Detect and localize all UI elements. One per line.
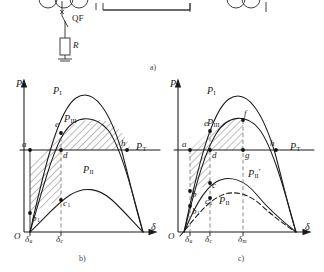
xtick-label-delta-c-c: δc	[205, 235, 212, 245]
delta-m-sym-c: δ	[238, 234, 242, 244]
pt-letter-c: P	[290, 141, 296, 152]
b1-letter-c: b	[192, 206, 197, 216]
point-label-g-c: g	[245, 151, 250, 160]
point-label-d-c: d	[212, 151, 217, 160]
axis-y-arrow-c	[176, 80, 181, 87]
axis-x-label-c: δ	[305, 222, 310, 232]
curve-label-p1-c: PI	[207, 86, 216, 96]
p1-sub-c: I	[214, 89, 216, 96]
curve-label-p2prime-c: PII′	[248, 168, 260, 179]
delta-c-sub-c: c	[210, 238, 212, 244]
delta-a-sub-c: a	[190, 238, 193, 244]
pt-sub-c: T	[297, 145, 301, 152]
origin-label-c: O	[168, 232, 175, 241]
xtick-label-delta-m-c: δm	[238, 235, 247, 245]
point-label-h-c: h	[270, 139, 275, 148]
point-label-e-c: e	[204, 119, 208, 128]
delta-m-sub-c: m	[243, 238, 247, 244]
c1-sub-c: 1	[209, 200, 212, 206]
b1-sub-c: 1	[197, 210, 200, 216]
point-label-c-c: c	[212, 181, 216, 190]
p3-sub-c: III	[214, 121, 220, 128]
p2-sub-c: II	[226, 199, 230, 206]
point-a-c	[188, 148, 192, 152]
point-label-f-c: f	[244, 109, 247, 118]
p2-letter-c: P	[219, 195, 225, 206]
point-e-c	[208, 129, 212, 133]
point-h-c	[274, 148, 278, 152]
axis-y-label-c: P	[170, 79, 176, 89]
point-label-b-c: b	[192, 190, 197, 199]
panel-c-svg	[0, 0, 324, 272]
panel-c-chart: P δ O PI PIII PII′ PII PT a e f d g h b …	[0, 0, 324, 272]
curve-label-p3-c: PIII	[207, 118, 220, 128]
point-label-c1-c: c1	[205, 197, 212, 207]
p1-letter-c: P	[207, 85, 213, 96]
curve-label-p2-c: PII	[219, 196, 230, 206]
xtick-label-delta-a-c: δa	[185, 235, 192, 245]
delta-c-sym-c: δ	[205, 234, 209, 244]
curve-label-pt-c: PT	[290, 142, 300, 152]
point-f-c	[241, 118, 245, 122]
point-label-b1-c: b1	[192, 207, 200, 217]
delta-a-sym-c: δ	[185, 234, 189, 244]
p2p-letter-c: P	[248, 168, 254, 179]
point-label-a-c: a	[182, 140, 187, 149]
caption-c: c)	[238, 254, 244, 263]
p2p-prime-c: ′	[259, 167, 261, 177]
